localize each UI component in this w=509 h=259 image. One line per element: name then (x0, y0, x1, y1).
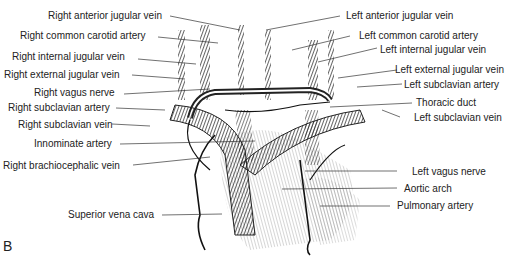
label-right-common-carotid-artery: Right common carotid artery (20, 30, 146, 42)
anatomy-diagram: Right anterior jugular vein Right common… (0, 0, 509, 259)
label-left-subclavian-artery: Left subclavian artery (404, 79, 499, 91)
label-right-external-jugular-vein: Right external jugular vein (4, 69, 120, 81)
label-thoracic-duct: Thoracic duct (416, 97, 476, 109)
label-left-vagus-nerve: Left vagus nerve (412, 166, 486, 178)
label-right-anterior-jugular-vein: Right anterior jugular vein (48, 10, 162, 22)
figure-label: B (3, 238, 12, 254)
label-left-external-jugular-vein: Left external jugular vein (395, 64, 504, 76)
label-pulmonary-artery: Pulmonary artery (397, 200, 473, 212)
label-innominate-artery: Innominate artery (34, 138, 112, 150)
label-left-internal-jugular-vein: Left internal jugular vein (380, 44, 486, 56)
label-left-subclavian-vein: Left subclavian vein (414, 112, 502, 124)
label-right-subclavian-vein: Right subclavian vein (18, 119, 113, 131)
label-right-subclavian-artery: Right subclavian artery (8, 102, 110, 114)
label-right-brachiocephalic-vein: Right brachiocephalic vein (3, 160, 120, 172)
label-left-anterior-jugular-vein: Left anterior jugular vein (346, 10, 453, 22)
label-right-vagus-nerve: Right vagus nerve (34, 87, 115, 99)
label-superior-vena-cava: Superior vena cava (68, 209, 154, 221)
label-left-common-carotid-artery: Left common carotid artery (359, 30, 478, 42)
label-aortic-arch: Aortic arch (404, 183, 452, 195)
label-right-internal-jugular-vein: Right internal jugular vein (12, 51, 125, 63)
